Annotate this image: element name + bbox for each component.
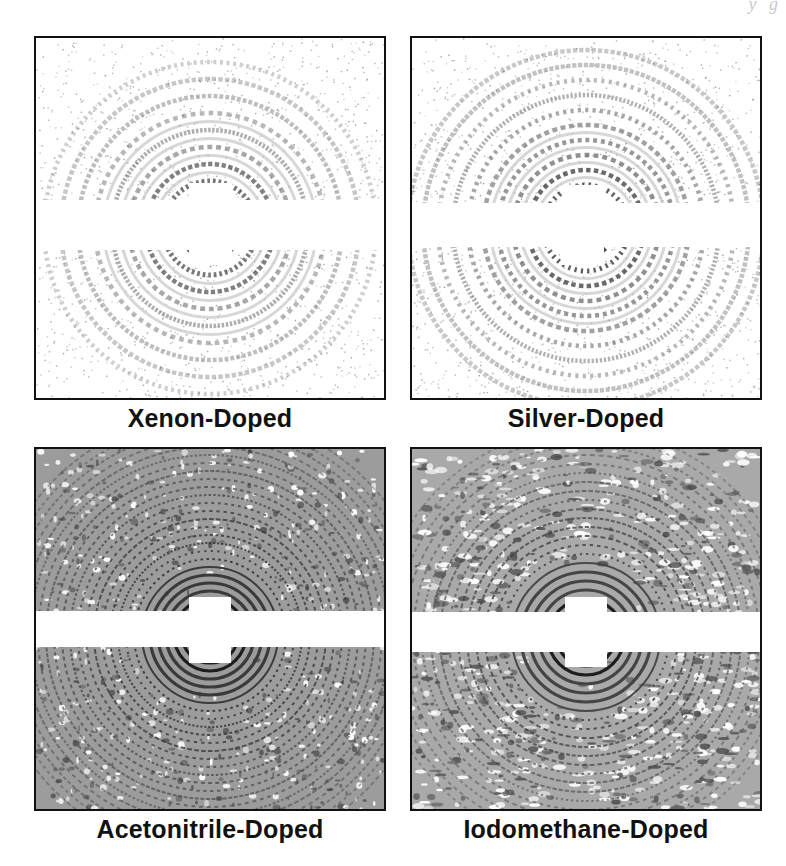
diffraction-image-iodomethane bbox=[410, 447, 762, 811]
diffraction-pattern-iodomethane bbox=[412, 449, 760, 809]
diffraction-image-acetonitrile bbox=[34, 447, 386, 811]
diffraction-pattern-xenon bbox=[36, 38, 384, 398]
page-bleed-text: y g bbox=[749, 0, 783, 15]
caption-xenon-doped: Xenon-Doped bbox=[34, 404, 386, 433]
diffraction-image-xenon bbox=[34, 36, 386, 400]
beamstop-square bbox=[565, 597, 607, 667]
caption-iodomethane-doped: Iodomethane-Doped bbox=[410, 815, 762, 844]
beamstop-square bbox=[189, 597, 231, 663]
caption-acetonitrile-doped: Acetonitrile-Doped bbox=[34, 815, 386, 844]
beamstop-square bbox=[562, 185, 604, 265]
diffraction-image-silver bbox=[410, 36, 762, 400]
beamstop-square bbox=[189, 183, 232, 265]
diffraction-pattern-silver bbox=[412, 38, 760, 398]
diffraction-pattern-acetonitrile bbox=[36, 449, 384, 809]
caption-silver-doped: Silver-Doped bbox=[410, 404, 762, 433]
